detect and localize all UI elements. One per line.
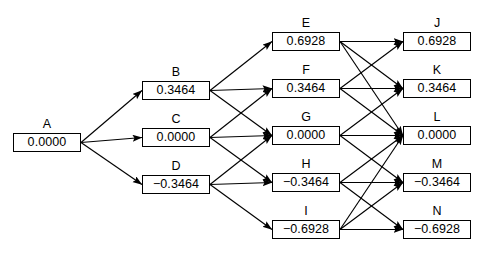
- node-label-g: G: [272, 111, 340, 124]
- edge-d-to-h: [210, 183, 272, 185]
- node-c[interactable]: 0.0000: [142, 128, 210, 147]
- node-j[interactable]: 0.6928: [403, 32, 471, 51]
- node-label-e: E: [272, 17, 340, 30]
- edge-a-to-d: [81, 143, 142, 185]
- node-value-j: 0.6928: [418, 35, 457, 48]
- node-value-a: 0.0000: [28, 136, 67, 149]
- node-value-f: 0.3464: [287, 82, 326, 95]
- node-value-k: 0.3464: [418, 82, 457, 95]
- edge-c-to-g: [210, 136, 272, 138]
- edge-d-to-g: [210, 136, 272, 185]
- node-f[interactable]: 0.3464: [272, 79, 340, 98]
- node-label-d: D: [142, 160, 210, 173]
- node-value-l: 0.0000: [418, 129, 457, 142]
- node-m[interactable]: −0.3464: [403, 173, 471, 192]
- edge-c-to-f: [210, 89, 272, 138]
- node-h[interactable]: −0.3464: [272, 173, 340, 192]
- node-label-a: A: [13, 118, 81, 131]
- diagram-canvas: A0.0000B0.3464C0.0000D−0.3464E0.6928F0.3…: [0, 0, 486, 265]
- node-label-l: L: [403, 111, 471, 124]
- node-label-k: K: [403, 64, 471, 77]
- edge-a-to-c: [81, 138, 142, 143]
- node-label-n: N: [403, 205, 471, 218]
- edge-d-to-i: [210, 185, 272, 230]
- node-value-h: −0.3464: [283, 176, 329, 189]
- node-g[interactable]: 0.0000: [272, 126, 340, 145]
- node-n[interactable]: −0.6928: [403, 220, 471, 239]
- node-value-n: −0.6928: [414, 223, 460, 236]
- node-value-b: 0.3464: [157, 84, 196, 97]
- node-label-i: I: [272, 205, 340, 218]
- node-e[interactable]: 0.6928: [272, 32, 340, 51]
- node-k[interactable]: 0.3464: [403, 79, 471, 98]
- node-value-d: −0.3464: [153, 178, 199, 191]
- node-b[interactable]: 0.3464: [142, 81, 210, 100]
- node-label-h: H: [272, 158, 340, 171]
- node-label-c: C: [142, 113, 210, 126]
- edge-a-to-b: [81, 91, 142, 143]
- node-i[interactable]: −0.6928: [272, 220, 340, 239]
- node-l[interactable]: 0.0000: [403, 126, 471, 145]
- node-value-c: 0.0000: [157, 131, 196, 144]
- node-value-e: 0.6928: [287, 35, 326, 48]
- edge-b-to-f: [210, 89, 272, 91]
- node-label-f: F: [272, 64, 340, 77]
- node-label-b: B: [142, 66, 210, 79]
- node-value-m: −0.3464: [414, 176, 460, 189]
- node-d[interactable]: −0.3464: [142, 175, 210, 194]
- node-value-g: 0.0000: [287, 129, 326, 142]
- node-value-i: −0.6928: [283, 223, 329, 236]
- node-label-j: J: [403, 17, 471, 30]
- edge-b-to-e: [210, 42, 272, 91]
- node-a[interactable]: 0.0000: [13, 133, 81, 152]
- edges: [81, 42, 403, 230]
- node-label-m: M: [403, 158, 471, 171]
